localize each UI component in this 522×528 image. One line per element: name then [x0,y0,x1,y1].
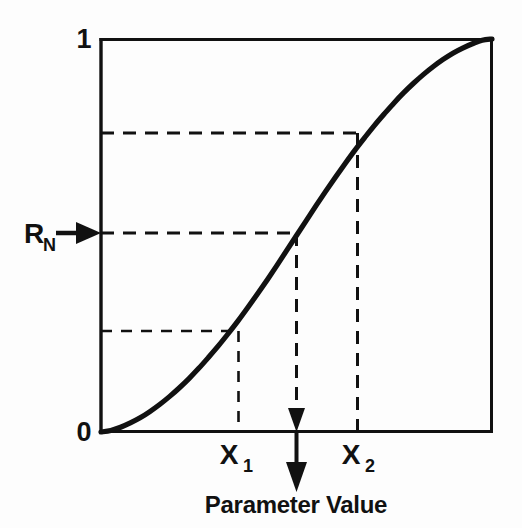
rn-input-arrow [56,222,101,244]
rn-label: R [24,218,44,249]
figure-canvas: 1 0 R N X 1 X 2 Parameter Value [0,0,522,528]
output-arrow-head-icon [286,462,307,492]
cdf-sampling-figure: 1 0 R N X 1 X 2 Parameter Value [0,0,522,528]
x-axis-title: Parameter Value [205,491,387,518]
rn-vertical-guide [288,233,305,432]
y-axis-max-label: 1 [76,24,91,54]
y-axis-min-label: 0 [76,417,91,447]
rn-label-subscript: N [43,235,56,255]
x2-label: X [342,439,361,470]
x2-label-subscript: 2 [365,456,375,476]
rn-arrow-head-icon [76,222,101,244]
x1-label-subscript: 1 [243,456,253,476]
x1-label: X [220,439,239,470]
rn-down-guide-arrowhead-icon [288,408,305,432]
parameter-output-arrow [286,432,307,492]
